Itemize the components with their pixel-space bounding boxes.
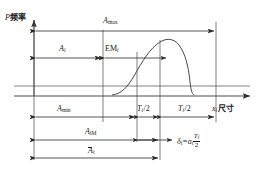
- distribution-dimension-diagram: P频率 xi 尺寸 Amax Ai EMi Amin Ti/2 Ti/2 AiM…: [0, 0, 264, 180]
- y-axis-text: 频率: [10, 13, 26, 22]
- label-a-iM: AiM: [85, 128, 96, 137]
- label-a-max: Amax: [103, 17, 118, 26]
- x-axis-label: xi 尺寸: [212, 105, 234, 114]
- label-a-i-bar: Ai: [88, 146, 94, 156]
- label-em-i: EMi: [105, 45, 119, 54]
- x-axis-text: 尺寸: [218, 104, 234, 113]
- label-formula-delta-i: δi=aiTi2: [177, 133, 200, 149]
- y-axis-label: P频率: [5, 14, 26, 22]
- distribution-curve: [112, 39, 194, 95]
- label-a-min: Amin: [57, 105, 71, 114]
- label-t-half-right: Ti/2: [178, 105, 191, 114]
- label-t-half-left: Ti/2: [137, 105, 150, 114]
- label-a-i: Ai: [59, 45, 65, 54]
- normal-distribution-curve: [112, 39, 194, 95]
- diagram-canvas: [0, 0, 264, 180]
- vertical-extension-lines: [14, 20, 250, 160]
